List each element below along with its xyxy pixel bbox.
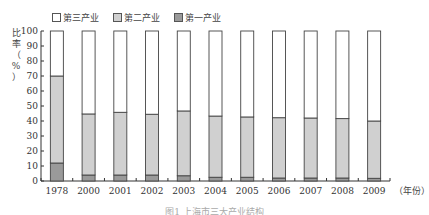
bar-segment <box>114 175 127 181</box>
y-tick-label: 40 <box>27 116 39 126</box>
y-tick-label: 80 <box>27 56 39 66</box>
x-tick-label: 1978 <box>45 186 68 196</box>
y-tick-label: 0 <box>32 176 38 186</box>
x-tick-label: 2005 <box>236 186 259 196</box>
y-tick-label: 60 <box>27 86 39 96</box>
y-tick-label: 10 <box>27 161 39 171</box>
x-tick-label: 2008 <box>331 186 354 196</box>
bar-segment <box>177 31 190 111</box>
legend-label-secondary: 第二产业 <box>124 11 160 24</box>
bar-segment <box>241 31 254 117</box>
y-label-char: % <box>11 61 21 72</box>
bar-segment <box>209 31 222 116</box>
y-label-char: ） <box>11 72 21 83</box>
x-axis-label: （年份） <box>394 185 429 196</box>
bar-segment <box>272 31 285 118</box>
x-tick-label: 2003 <box>172 186 195 196</box>
y-tick-label: 100 <box>21 26 38 36</box>
legend-item-primary: 第一产业 <box>174 11 221 24</box>
bar-segment <box>146 114 159 175</box>
y-label-char: 率 <box>11 39 21 50</box>
legend-item-tertiary: 第三产业 <box>52 11 99 24</box>
y-tick-label: 70 <box>27 71 39 81</box>
bar-segment <box>241 177 254 181</box>
bar-segment <box>336 31 349 119</box>
y-tick-label: 50 <box>27 101 39 111</box>
bar-segment <box>146 175 159 181</box>
x-tick-label: 2006 <box>268 186 291 196</box>
bar-segment <box>177 176 190 181</box>
bar-segment <box>82 114 95 175</box>
x-tick-label: 2004 <box>204 186 227 196</box>
bar-segment <box>82 175 95 181</box>
legend-swatch-tertiary <box>52 13 61 22</box>
bar-segment <box>368 121 381 178</box>
y-axis-label: 比 率 （ % ） <box>11 28 21 83</box>
x-tick-label: 2007 <box>299 186 322 196</box>
legend: 第三产业 第二产业 第一产业 <box>52 11 221 24</box>
y-label-char: （ <box>11 50 21 61</box>
legend-swatch-primary <box>174 13 183 22</box>
legend-label-primary: 第一产业 <box>185 11 221 24</box>
legend-swatch-secondary <box>113 13 122 22</box>
bar-segment <box>336 119 349 178</box>
legend-item-secondary: 第二产业 <box>113 11 160 24</box>
bar-segment <box>209 116 222 177</box>
bar-segment <box>50 31 63 76</box>
bar-segment <box>272 178 285 181</box>
bar-segment <box>50 76 63 163</box>
x-tick-label: 2000 <box>77 186 100 196</box>
bar-segment <box>209 177 222 181</box>
stacked-bar-chart: 0102030405060708090100197820002001200220… <box>0 0 429 215</box>
x-tick-label: 2002 <box>141 186 164 196</box>
x-tick-label: 2009 <box>363 186 386 196</box>
y-tick-label: 20 <box>27 146 39 156</box>
bar-segment <box>241 117 254 177</box>
bar-segment <box>304 31 317 118</box>
bar-segment <box>177 111 190 176</box>
bar-segment <box>50 163 63 181</box>
bar-segment <box>82 31 95 114</box>
figure-caption: 图1 上海市三大产业结构 <box>0 205 429 215</box>
bar-segment <box>368 31 381 121</box>
y-tick-label: 30 <box>27 131 39 141</box>
legend-label-tertiary: 第三产业 <box>63 11 99 24</box>
bar-segment <box>146 31 159 114</box>
bar-segment <box>272 118 285 178</box>
y-tick-label: 90 <box>27 41 39 51</box>
bar-segment <box>304 118 317 178</box>
x-tick-label: 2001 <box>109 186 132 196</box>
y-label-char: 比 <box>11 28 21 39</box>
bar-segment <box>114 31 127 112</box>
bar-segment <box>114 112 127 175</box>
